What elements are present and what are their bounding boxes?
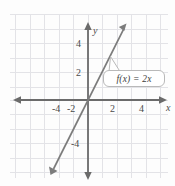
axis-arrowheads [13,22,167,180]
y-axis-label: y [93,26,97,36]
x-tick-label-2: 2 [110,104,115,114]
coordinate-plane [0,0,175,186]
y-tick-label--4: -4 [71,139,79,149]
y-axis-down-arrow [84,172,91,180]
function-callout: f(x) = 2x [103,70,165,87]
x-tick-label--4: -4 [52,104,60,114]
axis-lines [18,27,162,175]
x-axis-label: x [166,103,170,113]
y-tick-label-4: 4 [76,39,81,49]
x-tick-label-4: 4 [139,104,144,114]
y-axis-up-arrow [84,22,91,30]
function-callout-label: f(x) = 2x [116,74,151,84]
y-tick-label-2: 2 [76,68,81,78]
x-tick-label--2: -2 [67,104,75,114]
x-axis-left-arrow [13,96,21,103]
grid-lines [10,14,168,178]
graph-figure: -4 -2 2 4 4 2 -4 y x f(x) = 2x [0,0,175,186]
